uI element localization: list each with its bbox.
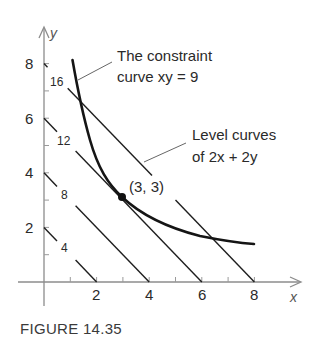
level-line-12b — [76, 151, 202, 282]
level-label-4: 4 — [61, 241, 68, 255]
level-line-12a — [44, 118, 57, 132]
figure-caption: FIGURE 14.35 — [20, 320, 122, 337]
level-line-16c — [176, 200, 255, 282]
y-ticks — [44, 64, 49, 255]
tangent-point — [118, 193, 126, 201]
figure-14-35: 2 4 6 8 x 2 4 6 8 y 4 8 12 16 (3, 3) The… — [0, 0, 335, 337]
constraint-leader-line — [78, 62, 112, 80]
level-line-8a — [44, 173, 57, 187]
level-label-8: 8 — [61, 188, 68, 202]
level-line-4a — [44, 227, 57, 241]
x-tick-label-6: 6 — [198, 286, 206, 303]
point-label: (3, 3) — [129, 178, 164, 195]
x-axis-label: x — [289, 289, 298, 305]
y-tick-label-8: 8 — [25, 55, 33, 72]
y-tick-label-6: 6 — [25, 110, 33, 127]
level-curves — [44, 64, 254, 282]
level-line-4b — [76, 260, 97, 282]
level-label-16: 16 — [50, 75, 64, 89]
level-note-line1: Level curves — [192, 126, 276, 143]
y-tick-label-4: 4 — [25, 164, 33, 181]
level-leader-line — [144, 143, 186, 162]
level-label-12: 12 — [57, 134, 71, 148]
y-axis-label: y — [49, 25, 58, 41]
y-tick-label-2: 2 — [25, 219, 33, 236]
constraint-note-line1: The constraint — [117, 47, 213, 64]
x-tick-label-8: 8 — [250, 286, 258, 303]
x-tick-label-2: 2 — [92, 286, 100, 303]
x-ticks — [70, 277, 254, 282]
x-tick-label-4: 4 — [145, 286, 153, 303]
constraint-note-line2: curve xy = 9 — [117, 68, 198, 85]
level-note-line2: of 2x + 2y — [192, 148, 258, 165]
